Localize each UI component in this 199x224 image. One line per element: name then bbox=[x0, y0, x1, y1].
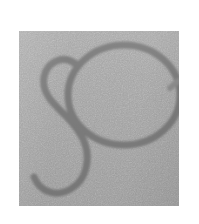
large-loop-shape bbox=[68, 45, 179, 145]
gray-image-plate bbox=[19, 31, 179, 206]
screenshot-canvas bbox=[0, 0, 199, 224]
drawn-figure bbox=[19, 31, 179, 206]
s-descender-shape bbox=[34, 60, 87, 194]
